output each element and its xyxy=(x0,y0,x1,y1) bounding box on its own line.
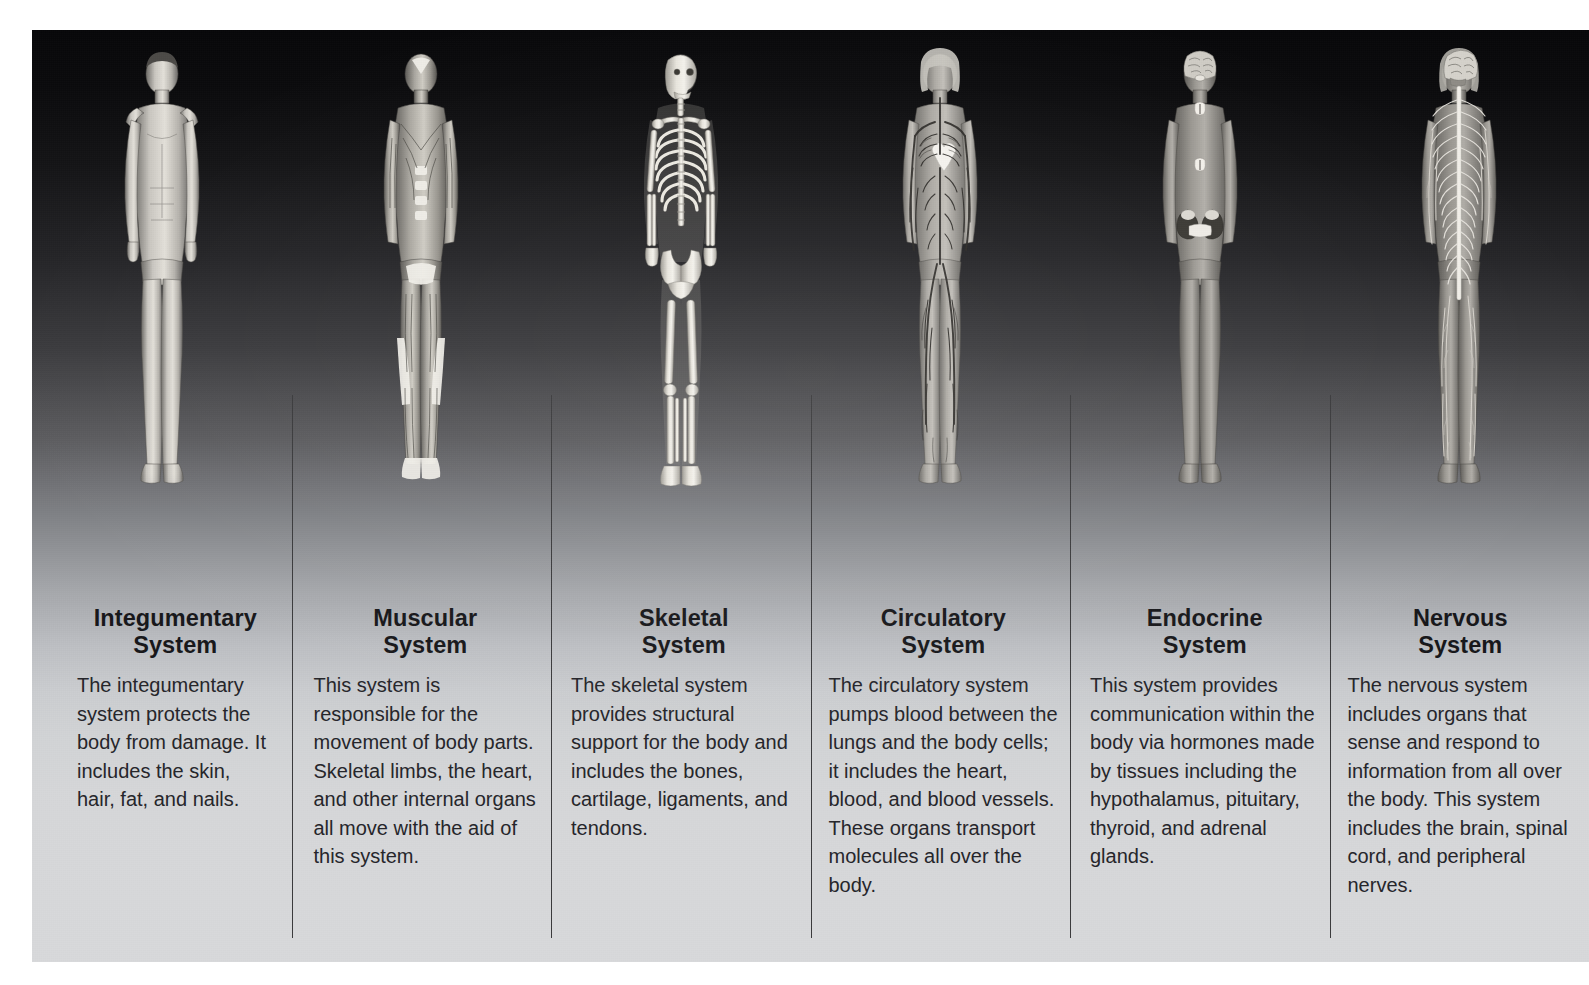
system-description-integumentary: The integumentary system protects the bo… xyxy=(77,671,274,814)
system-title-line2: System xyxy=(571,632,797,659)
body-systems-poster: Integumentary System The integumentary s… xyxy=(0,0,1589,985)
muscular-system-figure xyxy=(292,38,552,598)
system-description-skeletal: The skeletal system provides structural … xyxy=(571,671,797,842)
caption-endocrine: Endocrine System This system provides co… xyxy=(1070,605,1330,871)
system-column-integumentary[interactable]: Integumentary System The integumentary s… xyxy=(32,30,292,962)
system-column-skeletal[interactable]: Skeletal System The skeletal system prov… xyxy=(551,30,811,962)
skeletal-system-figure xyxy=(551,38,811,598)
integumentary-system-figure xyxy=(32,38,292,598)
system-title-nervous: Nervous System xyxy=(1348,605,1574,659)
circulatory-system-figure xyxy=(811,38,1071,598)
caption-skeletal: Skeletal System The skeletal system prov… xyxy=(551,605,811,842)
caption-integumentary: Integumentary System The integumentary s… xyxy=(32,605,292,814)
system-column-endocrine[interactable]: Endocrine System This system provides co… xyxy=(1070,30,1330,962)
system-column-list: Integumentary System The integumentary s… xyxy=(32,30,1589,962)
system-title-line1: Skeletal xyxy=(571,605,797,632)
system-title-muscular: Muscular System xyxy=(314,605,538,659)
system-title-skeletal: Skeletal System xyxy=(571,605,797,659)
system-title-line1: Endocrine xyxy=(1090,605,1320,632)
system-title-line2: System xyxy=(1348,632,1574,659)
system-column-muscular[interactable]: Muscular System This system is responsib… xyxy=(292,30,552,962)
caption-nervous: Nervous System The nervous system includ… xyxy=(1330,605,1589,899)
system-description-circulatory: The circulatory system pumps blood betwe… xyxy=(829,671,1059,899)
nervous-system-figure xyxy=(1330,38,1589,598)
system-title-line2: System xyxy=(829,632,1059,659)
system-title-line1: Nervous xyxy=(1348,605,1574,632)
poster-plate: Integumentary System The integumentary s… xyxy=(32,30,1589,962)
system-title-circulatory: Circulatory System xyxy=(829,605,1059,659)
system-title-line1: Integumentary xyxy=(77,605,274,632)
system-title-endocrine: Endocrine System xyxy=(1090,605,1320,659)
caption-circulatory: Circulatory System The circulatory syste… xyxy=(811,605,1071,899)
system-description-muscular: This system is responsible for the movem… xyxy=(314,671,538,871)
endocrine-system-figure xyxy=(1070,38,1330,598)
system-title-line2: System xyxy=(1090,632,1320,659)
system-title-line1: Circulatory xyxy=(829,605,1059,632)
system-column-circulatory[interactable]: Circulatory System The circulatory syste… xyxy=(811,30,1071,962)
system-title-line2: System xyxy=(77,632,274,659)
system-title-integumentary: Integumentary System xyxy=(77,605,274,659)
system-column-nervous[interactable]: Nervous System The nervous system includ… xyxy=(1330,30,1589,962)
system-title-line2: System xyxy=(314,632,538,659)
system-title-line1: Muscular xyxy=(314,605,538,632)
system-description-nervous: The nervous system includes organs that … xyxy=(1348,671,1574,899)
caption-muscular: Muscular System This system is responsib… xyxy=(292,605,552,871)
system-description-endocrine: This system provides communication withi… xyxy=(1090,671,1320,871)
